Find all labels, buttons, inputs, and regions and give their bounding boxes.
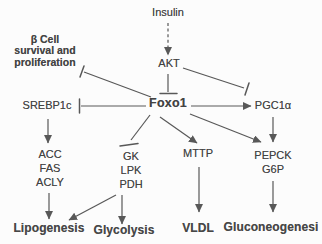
beta-cell-line-3: proliferation [14,57,75,68]
edge-foxo1-gk-inhibit [120,115,150,146]
node-foxo1: Foxo1 [149,97,187,110]
gene-acc: ACC [36,147,64,161]
node-gluconeogenic-genes: PEPCK G6P [254,148,291,176]
edge-akt-pgc1a-inhibit [183,68,249,95]
pathway-diagram: Insulin AKT β Cell survival and prolifer… [0,0,322,244]
node-glycolysis: Glycolysis [93,224,154,237]
edge-foxo1-pepck-arrow [190,114,261,142]
beta-cell-line-2: survival and [14,45,75,56]
node-akt: AKT [158,57,179,70]
gene-acly: ACLY [36,175,64,189]
gene-g6p: G6P [254,162,291,176]
node-mttp: MTTP [183,147,213,160]
edge-foxo1-mttp-arrow [160,117,197,143]
node-beta-cell-survival: β Cell survival and proliferation [14,34,75,68]
gene-lpk: LPK [119,163,142,177]
node-insulin: Insulin [152,6,184,19]
node-vldl: VLDL [182,222,214,235]
node-pgc1a: PGC1α [255,99,291,112]
gene-fas: FAS [36,161,64,175]
node-lipogenesis: Lipogenesis [13,222,84,235]
node-glycolytic-genes: GK LPK PDH [119,149,142,191]
edge-foxo1-srebp1c-inhibit [80,99,147,113]
gene-pdh: PDH [119,177,142,191]
edge-foxo1-betacell-inhibit [80,66,151,97]
gene-pepck: PEPCK [254,148,291,162]
edge-gk-lipogenesis-arrow [69,195,116,220]
node-srebp1c: SREBP1c [23,99,72,112]
node-gluconeogenesis: Gluconeogenesi [224,221,319,234]
node-lipogenic-genes: ACC FAS ACLY [36,147,64,189]
edge-akt-foxo1-inhibit [160,74,177,94]
gene-gk: GK [119,149,142,163]
